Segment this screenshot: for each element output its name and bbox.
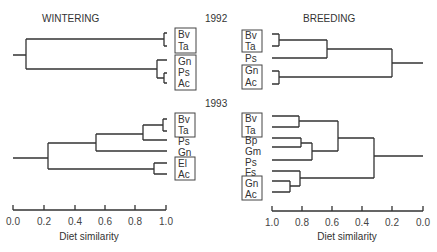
leaf-label: Bv <box>245 30 257 41</box>
tick-label: 0.0 <box>416 217 430 228</box>
tick-label: 1.0 <box>159 216 173 227</box>
leaf-label: Bv <box>178 114 190 125</box>
tick-label: 0.8 <box>295 217 309 228</box>
leaf-label: Ac <box>178 169 190 180</box>
left-axis-title: Diet similarity <box>59 231 118 242</box>
leaf-label: Ps <box>245 53 257 64</box>
tick-label: 1.0 <box>265 217 279 228</box>
leaf-label: Bp <box>245 135 258 146</box>
leaf-label: Gn <box>245 178 258 189</box>
dendrogram-breeding-1992: Bv Ta Ps Gn Ac <box>242 30 423 89</box>
year-1992-label: 1992 <box>205 13 228 24</box>
leaf-label: Gn <box>178 147 191 158</box>
leaf-label: Ta <box>245 41 256 52</box>
dendrogram-figure: WINTERING BREEDING 1992 1993 Bv Ta Gn Ps… <box>0 0 437 252</box>
leaf-label: El <box>178 158 187 169</box>
breeding-title: BREEDING <box>303 13 355 24</box>
right-x-axis: 1.0 0.8 0.6 0.4 0.2 0.0 Diet similarity <box>265 206 430 242</box>
tick-label: 0.4 <box>68 216 82 227</box>
leaf-label: Ac <box>245 77 257 88</box>
leaf-label: Gn <box>245 65 258 76</box>
dendrogram-wintering-1992: Bv Ta Gn Ps Ac <box>13 28 196 90</box>
tick-label: 0.4 <box>355 217 369 228</box>
leaf-label: Ac <box>245 189 257 200</box>
dendrogram-wintering-1993: Bv Ta Ps Gn El Ac <box>13 113 195 180</box>
tick-label: 0.0 <box>6 216 20 227</box>
year-1993-label: 1993 <box>205 98 228 109</box>
leaf-label: Ta <box>178 125 189 136</box>
leaf-label: Fs <box>245 167 256 178</box>
tick-label: 0.6 <box>325 217 339 228</box>
leaf-label: Ac <box>178 78 190 89</box>
leaf-label: Ps <box>178 136 190 147</box>
left-x-axis: 0.0 0.2 0.4 0.6 0.8 1.0 Diet similarity <box>6 205 173 242</box>
tick-label: 0.6 <box>98 216 112 227</box>
leaf-label: Bv <box>245 113 257 124</box>
leaf-label: Gm <box>245 146 261 157</box>
dendrogram-breeding-1993: Bv Ta Bp Gm Ps Fs Gn Ac <box>242 113 423 200</box>
leaf-label: Ta <box>178 41 189 52</box>
leaf-label: Ps <box>178 67 190 78</box>
leaf-label: Bv <box>178 29 190 40</box>
leaf-label: Gn <box>178 56 191 67</box>
tick-label: 0.2 <box>385 217 399 228</box>
tick-label: 0.8 <box>128 216 142 227</box>
right-axis-title: Diet similarity <box>317 231 376 242</box>
tick-label: 0.2 <box>37 216 51 227</box>
wintering-title: WINTERING <box>42 13 99 24</box>
